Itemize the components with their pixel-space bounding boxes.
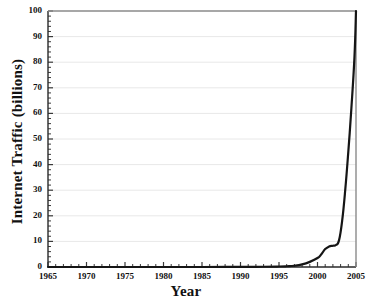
x-tick-label: 1970: [67, 271, 107, 281]
y-tick-label: 30: [12, 184, 42, 194]
y-tick-label: 60: [12, 107, 42, 117]
x-axis-title: Year: [0, 283, 372, 300]
y-tick-label: 20: [12, 210, 42, 220]
y-tick-label: 70: [12, 82, 42, 92]
y-tick-label: 0: [12, 261, 42, 271]
y-tick-label: 80: [12, 56, 42, 66]
x-tick-label: 1990: [221, 271, 261, 281]
x-tick-label: 2005: [336, 271, 372, 281]
x-tick-label: 1980: [144, 271, 184, 281]
y-tick-label: 10: [12, 235, 42, 245]
y-tick-label: 40: [12, 159, 42, 169]
y-tick-label: 90: [12, 31, 42, 41]
y-tick-label: 50: [12, 133, 42, 143]
y-tick-label: 100: [12, 5, 42, 15]
x-tick-label: 2000: [298, 271, 338, 281]
x-tick-label: 1965: [28, 271, 68, 281]
x-tick-label: 1985: [182, 271, 222, 281]
x-tick-label: 1995: [259, 271, 299, 281]
internet-traffic-line-chart: [0, 0, 372, 305]
x-tick-label: 1975: [105, 271, 145, 281]
